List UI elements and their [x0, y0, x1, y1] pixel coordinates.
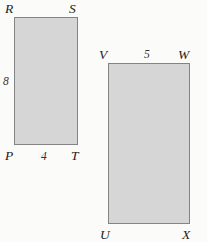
vertex-label-p: P	[5, 149, 13, 163]
vertex-label-u: U	[100, 228, 110, 242]
rectangle-prst	[14, 17, 78, 145]
vertex-label-x: X	[182, 228, 190, 242]
side-length-uvwx-width: 5	[144, 49, 150, 61]
vertex-label-r: R	[5, 2, 13, 16]
vertex-label-s: S	[69, 2, 76, 16]
geometry-figure: R S P T 8 4 V W U X 5	[0, 0, 207, 242]
side-length-prst-width: 4	[41, 151, 47, 163]
rectangle-uvwx	[108, 63, 190, 224]
vertex-label-w: W	[178, 48, 189, 62]
side-length-prst-height: 8	[3, 76, 9, 88]
vertex-label-t: T	[71, 149, 79, 163]
vertex-label-v: V	[99, 48, 107, 62]
